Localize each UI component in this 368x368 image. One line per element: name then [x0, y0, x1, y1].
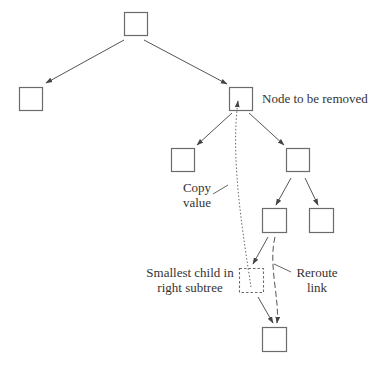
reroute-link-label-line2: link [293, 280, 341, 295]
edge-root-left [46, 40, 124, 83]
copy-value-arrow [236, 101, 251, 287]
left-child-node [20, 88, 43, 111]
reroute-link-label-line1: Reroute [293, 265, 341, 280]
copy-value-leader [213, 185, 228, 194]
edge-smallest-down [258, 297, 273, 323]
smallest-child-label-line1: Smallest child in [142, 265, 238, 280]
smallest-child-node [240, 269, 264, 293]
copy-value-label-line1: Copy [180, 180, 214, 195]
node-to-remove [230, 88, 253, 111]
edge-right-right [305, 178, 318, 205]
smallest-child-label: Smallest child in right subtree [142, 265, 238, 295]
remove-left-child-node [172, 149, 195, 172]
edge-remove-left [197, 113, 232, 145]
node-to-remove-label: Node to be removed [262, 91, 368, 106]
remove-right-child-node [287, 149, 310, 172]
right-left-child-node [263, 209, 287, 233]
reroute-link-arrow [273, 237, 278, 323]
smallest-child-label-line2: right subtree [142, 280, 238, 295]
reroute-link-label: Reroute link [293, 265, 341, 295]
copy-value-label-line2: value [180, 195, 214, 210]
reroute-leader [274, 264, 291, 272]
edge-to-smallest [253, 237, 268, 264]
edge-right-left [276, 178, 291, 205]
right-right-child-node [310, 209, 334, 233]
edge-remove-right [249, 113, 284, 145]
smallest-child-right-node [263, 328, 287, 352]
root-node [125, 13, 148, 36]
copy-value-label: Copy value [180, 180, 214, 210]
edge-root-right [144, 40, 227, 84]
